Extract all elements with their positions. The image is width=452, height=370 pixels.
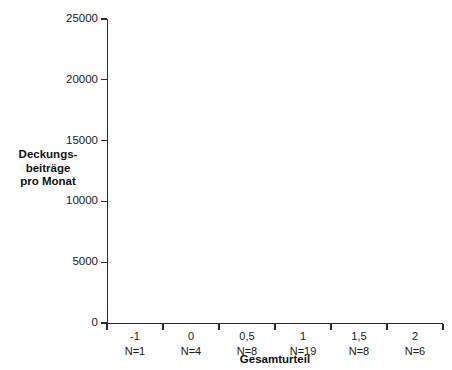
y-axis-tick-label: 15000 [38,135,98,146]
clipped-text-artifact [0,0,452,6]
y-axis-tick [101,140,107,141]
y-axis-tick [101,79,107,80]
y-axis-tick-label: 0 [38,317,98,328]
y-axis-tick [101,18,107,19]
y-axis-title-line-2: beiträge [2,162,94,176]
y-axis-tick-label: 5000 [38,256,98,267]
y-axis-title: Deckungs- beiträge pro Monat [2,148,94,189]
y-axis-line [107,19,108,324]
y-axis-tick [101,201,107,202]
y-axis-tick-label: 25000 [38,13,98,24]
y-axis-title-line-3: pro Monat [2,175,94,189]
y-axis-tick-label: 10000 [38,195,98,206]
y-axis-tick-label: 20000 [38,74,98,85]
y-axis-title-line-1: Deckungs- [2,148,94,162]
category-value: 2 [379,330,451,342]
x-axis-title: Gesamturteil [107,353,443,365]
y-axis-tick [101,262,107,263]
bar-chart: Deckungs- beiträge pro Monat 05000100001… [0,0,452,370]
